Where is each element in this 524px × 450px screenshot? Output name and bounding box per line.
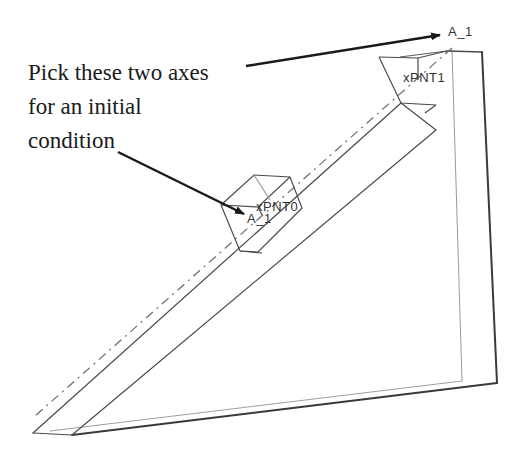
axis-label-block[interactable]: A_1 bbox=[247, 211, 272, 226]
arrow-to-top-axis bbox=[246, 35, 440, 66]
annotation-line-1: Pick these two axes bbox=[28, 56, 209, 90]
annotation-text: Pick these two axes for an initial condi… bbox=[28, 56, 209, 158]
annotation-line-2: for an initial bbox=[28, 90, 209, 124]
block-pnt1[interactable] bbox=[379, 51, 447, 130]
arrow-to-block-axis bbox=[118, 152, 244, 214]
axis-label-top[interactable]: A_1 bbox=[448, 24, 473, 39]
point-label-pnt1[interactable]: xPNT1 bbox=[403, 70, 445, 85]
annotation-line-3: condition bbox=[28, 124, 209, 158]
